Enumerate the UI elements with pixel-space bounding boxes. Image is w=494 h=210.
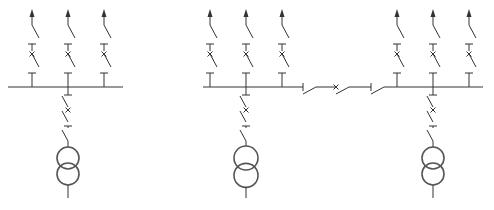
arrow-up-icon — [66, 9, 71, 17]
breaker-blade — [240, 111, 246, 122]
disconnector-blade — [32, 25, 39, 38]
bus-coupler — [303, 83, 384, 94]
arrow-up-icon — [395, 9, 400, 17]
single-line-diagram — [0, 0, 494, 210]
feeder-feeder-7 — [393, 9, 404, 87]
disconnector-blade — [427, 96, 433, 107]
breaker-blade — [427, 111, 433, 122]
feeder-feeder-9 — [465, 9, 476, 87]
arrow-up-icon — [30, 9, 35, 17]
disconnector-blade — [433, 25, 440, 38]
disconnector-blade — [68, 25, 75, 38]
coupler-breaker-blade — [336, 87, 349, 94]
breaker-blade — [210, 54, 217, 67]
breaker-blade — [433, 54, 440, 67]
transformer-winding-secondary — [57, 163, 79, 185]
breaker-blade — [469, 54, 476, 67]
feeder-feeder-6 — [278, 9, 289, 87]
breaker-blade — [246, 54, 253, 67]
arrow-up-icon — [244, 9, 249, 17]
arrow-up-icon — [280, 9, 285, 17]
disconnector-blade — [210, 25, 217, 38]
disconnector-blade — [397, 25, 404, 38]
disconnector-blade — [62, 130, 68, 141]
coupler-disconnector-blade — [303, 87, 316, 94]
breaker-blade — [62, 111, 68, 122]
breaker-blade — [104, 54, 111, 67]
feeder-feeder-3 — [100, 9, 111, 87]
breaker-blade — [397, 54, 404, 67]
coupler-disconnector-blade — [371, 87, 384, 94]
arrow-up-icon — [431, 9, 436, 17]
feeder-feeder-2 — [64, 9, 75, 87]
incomer-section-right — [422, 87, 444, 198]
feeder-feeder-4 — [206, 9, 217, 87]
feeder-feeder-1 — [28, 9, 39, 87]
breaker-blade — [68, 54, 75, 67]
incomer-section-middle — [234, 87, 258, 198]
arrow-up-icon — [102, 9, 107, 17]
disconnector-blade — [240, 96, 246, 107]
disconnector-blade — [104, 25, 111, 38]
disconnector-blade — [246, 25, 253, 38]
disconnector-blade — [240, 130, 246, 141]
disconnector-blade — [469, 25, 476, 38]
breaker-blade — [282, 54, 289, 67]
breaker-blade — [32, 54, 39, 67]
feeder-feeder-5 — [242, 9, 253, 87]
incomer-section-left — [57, 87, 79, 198]
disconnector-blade — [427, 130, 433, 141]
transformer-winding-secondary — [234, 163, 258, 187]
transformer-winding-secondary — [422, 163, 444, 185]
feeder-feeder-8 — [429, 9, 440, 87]
disconnector-blade — [62, 96, 68, 107]
disconnector-blade — [282, 25, 289, 38]
arrow-up-icon — [208, 9, 213, 17]
arrow-up-icon — [467, 9, 472, 17]
